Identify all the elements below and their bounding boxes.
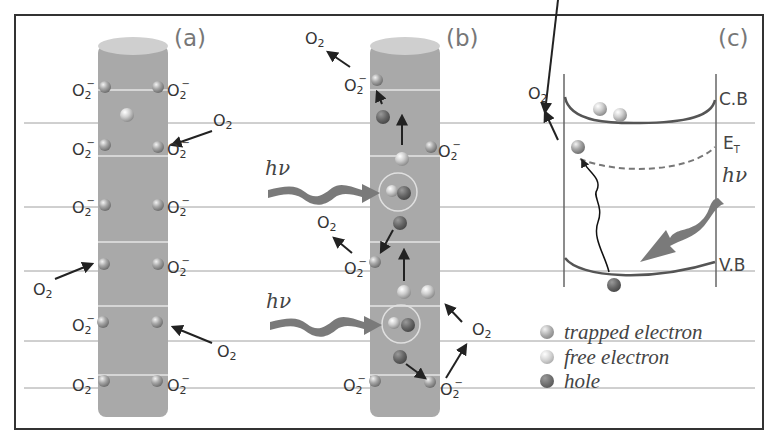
free-electron-swatch (540, 350, 554, 364)
superoxide-label: O2− (438, 140, 461, 162)
photon-label: hν (266, 291, 291, 311)
hole-swatch (540, 374, 554, 388)
superoxide-label: O2− (167, 196, 190, 218)
superoxide-label: O2− (344, 257, 367, 279)
superoxide-label: O2− (343, 374, 366, 396)
superoxide-label: O2− (167, 79, 190, 101)
legend-item-trapped-electron: trapped electron (564, 322, 703, 343)
superoxide-label: O2− (344, 74, 367, 96)
trap-level-label: ET (723, 135, 740, 155)
superoxide-label: O2− (440, 378, 463, 400)
legend-item-free-electron: free electron (564, 347, 669, 368)
superoxide-label: O2− (72, 138, 95, 160)
photon-label: hν (265, 158, 290, 178)
photon-label: hν (722, 165, 747, 185)
trap-level-subscript: T (734, 144, 740, 155)
panel-label-c: (c) (718, 27, 749, 50)
figure: (a) (b) (c) O2− O2− O2 O2− O2− O2− O2− O… (0, 0, 771, 442)
superoxide-label: O2− (167, 138, 190, 160)
oxygen-label: O2 (472, 322, 492, 340)
valence-band-label: V.B (719, 257, 746, 274)
oxygen-label: O2 (213, 113, 233, 131)
oxygen-label: O2 (317, 215, 337, 233)
superoxide-label: O2− (72, 196, 95, 218)
oxygen-label: O2 (33, 282, 53, 300)
panel-label-a: (a) (174, 27, 206, 50)
superoxide-label: O2− (167, 256, 190, 278)
superoxide-label: O2− (72, 79, 95, 101)
trap-level-symbol: E (723, 133, 734, 153)
nanorod-b (369, 37, 440, 417)
nanorod-a (97, 37, 168, 417)
legend-item-hole: hole (564, 371, 600, 392)
oxygen-label: O2 (305, 31, 325, 49)
diagram-canvas (0, 0, 771, 442)
superoxide-label: O2− (72, 374, 95, 396)
conduction-band-label: C.B (719, 91, 748, 108)
panel-label-b: (b) (446, 27, 479, 50)
superoxide-label: O2− (72, 314, 95, 336)
oxygen-label: O2 (528, 86, 548, 104)
trapped-electron-swatch (540, 325, 554, 339)
superoxide-label: O2− (167, 374, 190, 396)
oxygen-label: O2 (217, 344, 237, 362)
